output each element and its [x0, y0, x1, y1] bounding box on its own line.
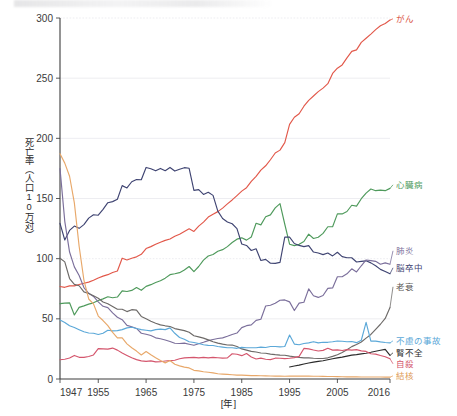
series-line-がん — [60, 20, 390, 287]
series-line-脳卒中 — [60, 167, 390, 273]
series-label-老衰: 老衰 — [396, 282, 414, 292]
series-label-自殺: 自殺 — [396, 359, 414, 369]
label-leader-lines-group — [390, 19, 393, 377]
series-line-自殺 — [60, 348, 390, 362]
series-line-老衰 — [60, 258, 390, 358]
series-label-結核: 結核 — [396, 371, 414, 381]
y-tick-label: 250 — [36, 73, 53, 84]
y-tick-label: 200 — [36, 133, 53, 144]
x-axis-title: [年] — [0, 396, 457, 410]
series-label-がん: がん — [396, 14, 414, 24]
y-tick-label: 0 — [47, 374, 53, 385]
series-label-心臓病: 心臓病 — [396, 180, 423, 190]
series-line-心臓病 — [60, 188, 390, 315]
y-tick-label: 150 — [36, 193, 53, 204]
mortality-rate-line-chart: 死亡率（人口10万対） 050100150200250300 194719551… — [0, 0, 457, 416]
y-tick-label: 50 — [42, 313, 54, 324]
series-label-脳卒中: 脳卒中 — [396, 263, 423, 273]
series-label-腎不全: 腎不全 — [396, 348, 423, 358]
series-line-結核 — [60, 154, 390, 377]
series-label-肺炎: 肺炎 — [396, 246, 414, 256]
series-labels-group: がん心臓病肺炎脳卒中老衰不慮の事故腎不全自殺結核 — [396, 14, 441, 381]
y-tick-label: 300 — [36, 13, 53, 24]
plot-svg: 050100150200250300 194719551965197519851… — [0, 0, 457, 416]
y-tick-label: 100 — [36, 253, 53, 264]
series-label-不慮の事故: 不慮の事故 — [396, 336, 441, 346]
y-ticks-group: 050100150200250300 — [36, 13, 60, 385]
